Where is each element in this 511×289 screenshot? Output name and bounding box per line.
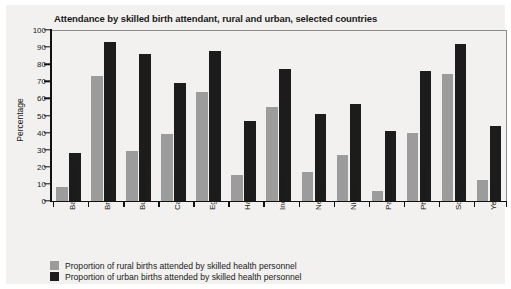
x-tick-label: Brazil (103, 190, 112, 210)
bar-rural (477, 180, 489, 201)
x-tick-mark (404, 201, 405, 207)
x-tick-mark (439, 201, 440, 207)
bar-group (191, 30, 226, 201)
y-tick-mark (44, 132, 50, 133)
bar-rural (231, 175, 243, 201)
x-tick-label: Burkina Faso (138, 163, 147, 210)
bar-urban (104, 42, 116, 201)
x-tick-mark (474, 201, 475, 207)
x-tick-mark (123, 201, 124, 207)
x-tick-mark (53, 201, 54, 207)
bar-rural (407, 133, 419, 201)
figure-frame: Attendance by skilled birth attendant, r… (6, 5, 505, 284)
x-tick-mark (88, 201, 89, 207)
x-tick-label: Nigeria (349, 185, 358, 210)
x-tick-mark (334, 201, 335, 207)
x-tick-mark (263, 201, 264, 207)
chart-screenshot: Attendance by skilled birth attendant, r… (0, 0, 511, 289)
y-tick-mark (44, 166, 50, 167)
y-tick-mark (44, 183, 50, 184)
bar-rural (196, 92, 208, 201)
x-tick-label: Philippines (419, 171, 428, 210)
x-tick-label: Indonesia (278, 175, 287, 210)
bar-urban (315, 114, 327, 201)
bar-group (86, 30, 121, 201)
bar-urban (244, 121, 256, 201)
y-tick-mark (44, 200, 50, 201)
legend-label: Proportion of rural births attended by s… (65, 261, 297, 271)
x-tick-label: Egypt (208, 190, 217, 210)
bar-rural (266, 107, 278, 201)
x-tick-label: Nepal (314, 189, 323, 210)
x-tick-label: Cambodia (173, 174, 182, 210)
x-tick-label: Pakistan (384, 179, 393, 210)
y-tick-mark (44, 63, 50, 64)
bar-group (472, 30, 507, 201)
x-tick-mark (506, 201, 507, 207)
bar-rural (302, 172, 314, 201)
y-tick-mark (44, 46, 50, 47)
x-tick-mark (158, 201, 159, 207)
y-tick-mark (44, 149, 50, 150)
legend-item: Proportion of urban births attended by s… (50, 271, 301, 282)
bar-rural (372, 191, 384, 201)
legend-swatch-rural (50, 261, 59, 270)
bar-rural (161, 134, 173, 201)
x-tick-label: Haiti (243, 194, 252, 210)
bar-rural (91, 76, 103, 201)
x-tick-mark (299, 201, 300, 207)
legend-swatch-urban (50, 272, 59, 281)
legend-item: Proportion of rural births attended by s… (50, 260, 301, 271)
bar-rural (442, 74, 454, 201)
y-tick-mark (44, 29, 50, 30)
y-tick-mark (44, 115, 50, 116)
chart-title: Attendance by skilled birth attendant, r… (54, 13, 377, 24)
bar-rural (56, 187, 68, 201)
legend-label: Proportion of urban births attended by s… (65, 272, 301, 282)
x-tick-label: Yemen (489, 185, 498, 210)
x-tick-mark (228, 201, 229, 207)
bar-rural (126, 151, 138, 201)
x-tick-mark (369, 201, 370, 207)
y-tick-mark (44, 98, 50, 99)
chart-legend: Proportion of rural births attended by s… (50, 260, 301, 282)
bar-group (226, 30, 261, 201)
y-axis-title: Percentage (15, 80, 25, 160)
bar-urban (209, 51, 221, 201)
bar-rural (337, 155, 349, 201)
x-tick-label: South Africa (454, 167, 463, 210)
bar-group (332, 30, 367, 201)
x-tick-mark (193, 201, 194, 207)
x-tick-label: Bangladesh (68, 168, 77, 210)
bar-group (297, 30, 332, 201)
y-axis-tick-marks (6, 30, 52, 201)
y-tick-mark (44, 81, 50, 82)
bar-group (367, 30, 402, 201)
